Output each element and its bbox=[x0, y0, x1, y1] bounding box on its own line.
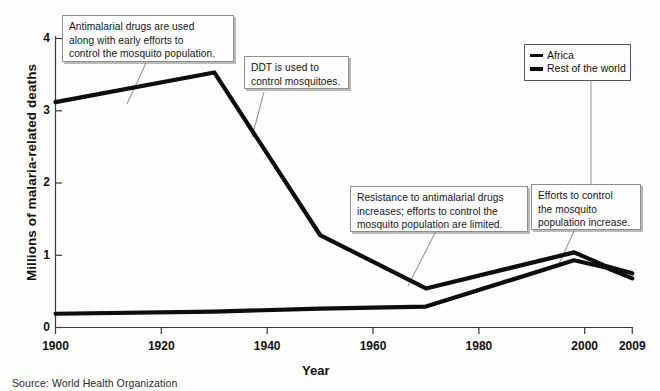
chart-legend: Africa Rest of the world bbox=[524, 44, 631, 81]
x-tick-label-1940: 1940 bbox=[241, 340, 293, 352]
callout-efforts-line-3: population increase. bbox=[538, 216, 635, 230]
y-axis-title: Millions of malaria-related deaths bbox=[24, 48, 39, 298]
leader-line-antimalarial bbox=[127, 63, 146, 104]
callout-resistance-line-3: mosquito population are limited. bbox=[357, 218, 522, 232]
y-tick-marks bbox=[56, 39, 63, 328]
callout-antimalarial-line-2: along with early efforts to bbox=[69, 34, 228, 48]
series-line-rest-of-world bbox=[56, 260, 633, 313]
x-tick-label-1920: 1920 bbox=[135, 340, 187, 352]
callout-leader-lines bbox=[127, 44, 591, 286]
callout-ddt: DDT is used to control mosquitoes. bbox=[244, 56, 349, 89]
callout-resistance-line-2: increases; efforts to control the bbox=[357, 205, 522, 219]
callout-resistance-line-1: Resistance to antimalarial drugs bbox=[357, 191, 522, 205]
legend-item-africa: Africa bbox=[530, 49, 625, 62]
legend-swatch-icon-africa bbox=[530, 54, 543, 57]
legend-item-rest-of-world: Rest of the world bbox=[530, 62, 625, 75]
callout-ddt-line-2: control mosquitoes. bbox=[251, 75, 343, 89]
x-axis-title: Year bbox=[302, 363, 329, 378]
callout-antimalarial-line-3: control the mosquito population. bbox=[69, 47, 228, 61]
x-tick-label-1900: 1900 bbox=[30, 340, 82, 352]
callout-antimalarial-drugs: Antimalarial drugs are used along with e… bbox=[62, 15, 234, 62]
series-line-africa bbox=[56, 72, 633, 288]
legend-swatch-icon-rest-of-world bbox=[530, 67, 543, 71]
source-note: Source: World Health Organization bbox=[12, 377, 177, 389]
chart-figure: 4 3 2 1 0 1900 1920 1940 1960 1980 2000 … bbox=[0, 0, 660, 391]
callout-resistance: Resistance to antimalarial drugs increas… bbox=[350, 186, 528, 232]
callout-antimalarial-line-1: Antimalarial drugs are used bbox=[69, 20, 228, 34]
y-tick-label-4: 4 bbox=[28, 32, 50, 44]
leader-line-resistance bbox=[408, 231, 436, 286]
legend-label-rest-of-world: Rest of the world bbox=[547, 62, 626, 75]
callout-efforts-line-2: the mosquito bbox=[538, 203, 635, 217]
callout-efforts-increase: Efforts to control the mosquito populati… bbox=[531, 184, 641, 230]
x-tick-marks bbox=[56, 328, 633, 335]
x-tick-label-2000: 2000 bbox=[559, 340, 611, 352]
x-tick-label-2009: 2009 bbox=[606, 340, 658, 352]
legend-label-africa: Africa bbox=[547, 49, 574, 62]
callout-efforts-line-1: Efforts to control bbox=[538, 189, 635, 203]
x-tick-label-1980: 1980 bbox=[453, 340, 505, 352]
y-tick-label-0: 0 bbox=[28, 321, 50, 333]
callout-ddt-line-1: DDT is used to bbox=[251, 61, 343, 75]
x-tick-label-1960: 1960 bbox=[347, 340, 399, 352]
